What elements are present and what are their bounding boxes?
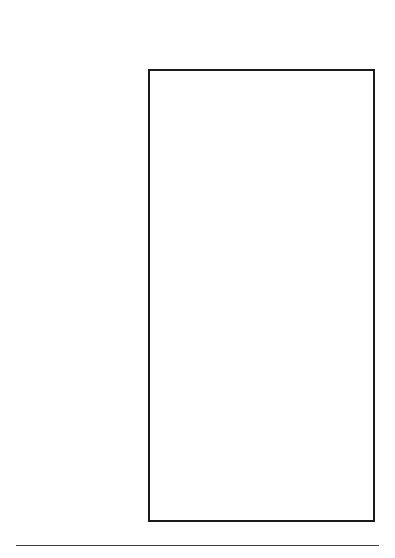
plot-area-frame (148, 69, 375, 522)
bottom-divider-rule (16, 545, 379, 546)
cholesterol-bar-chart (0, 0, 395, 558)
